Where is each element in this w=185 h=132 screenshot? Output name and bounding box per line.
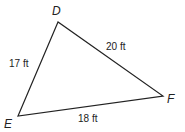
triangle-diagram: D E F 17 ft 20 ft 18 ft [0, 0, 185, 132]
vertex-label-e: E [4, 117, 13, 131]
side-label-de: 17 ft [9, 58, 29, 69]
side-label-ef: 18 ft [78, 113, 98, 124]
vertex-label-f: F [167, 92, 175, 106]
side-label-df: 20 ft [106, 41, 126, 52]
vertex-label-d: D [52, 4, 61, 18]
triangle-def [18, 22, 163, 116]
